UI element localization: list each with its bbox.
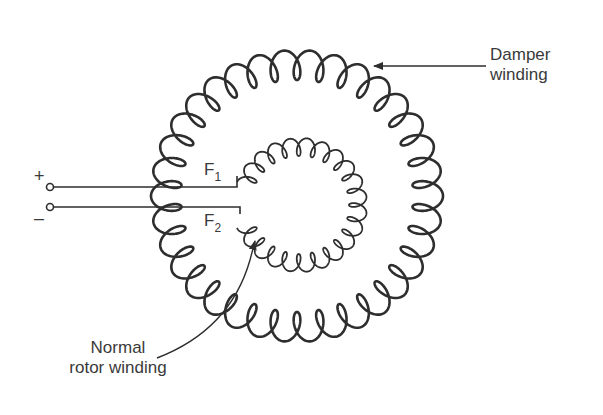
damper-label: Damper winding: [490, 45, 550, 85]
minus-sign: –: [34, 208, 44, 228]
f1-label: F1: [204, 160, 221, 181]
minus-terminal-icon: [47, 204, 54, 211]
f2-main: F: [204, 211, 214, 230]
rotor-label: Normal rotor winding: [48, 338, 188, 378]
damper-label-line1: Damper: [490, 45, 550, 65]
plus-terminal-icon: [47, 184, 54, 191]
f2-label: F2: [204, 211, 221, 232]
rotor-label-line2: rotor winding: [48, 358, 188, 378]
damper-winding-coil: [151, 51, 443, 342]
rotor-label-line1: Normal: [48, 338, 188, 358]
damper-label-line2: winding: [490, 65, 550, 85]
f1-main: F: [204, 160, 214, 179]
f1-sub: 1: [214, 170, 221, 184]
plus-sign: +: [34, 166, 45, 186]
f2-sub: 2: [214, 221, 221, 235]
rotor-winding-coil: [237, 138, 366, 271]
